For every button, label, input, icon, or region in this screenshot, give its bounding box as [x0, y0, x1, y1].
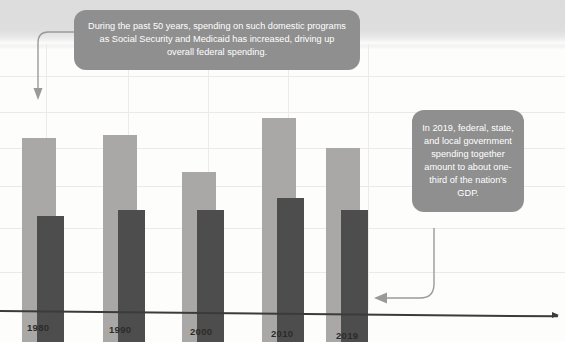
- x-axis-tick-2000: 2000: [190, 326, 212, 337]
- bar-state-local-2000: [197, 210, 224, 342]
- x-axis-arrow-icon: [552, 312, 559, 318]
- bar-state-local-1990: [118, 210, 145, 342]
- x-axis-tick-1980: 1980: [27, 322, 49, 333]
- x-axis-tick-2010: 2010: [271, 328, 293, 339]
- scanned-chart-page: 1980 1990 2000 2010 2019 During the past…: [0, 0, 565, 342]
- bar-state-local-2010: [277, 198, 304, 342]
- callout-gdp-share[interactable]: In 2019, federal, state, and local gover…: [412, 110, 524, 212]
- callout-federal-spending[interactable]: During the past 50 years, spending on su…: [74, 10, 360, 70]
- bar-state-local-2019: [341, 210, 368, 342]
- x-axis-tick-1990: 1990: [109, 324, 131, 335]
- x-axis-tick-2019: 2019: [336, 330, 358, 341]
